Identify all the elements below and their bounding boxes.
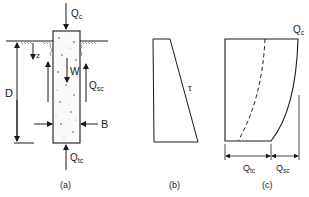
label-d: D [5, 87, 13, 99]
label-qc: Qc [71, 8, 83, 20]
pile-shaft [53, 31, 80, 143]
label-qsc-c: Qsc [276, 163, 290, 174]
pile-load-diagram: Qc z W Qsc D B Qtc (a) τ (b) Qc [0, 0, 309, 197]
label-b: B [101, 118, 108, 130]
caption-c: (c) [262, 180, 273, 190]
label-w: W [70, 66, 80, 77]
load-distribution-outline [225, 39, 298, 141]
label-qsc: Qsc [89, 80, 104, 92]
caption-a: (a) [60, 180, 71, 190]
label-tau: τ [188, 83, 192, 93]
label-qc-c: Qc [293, 24, 305, 36]
caption-b: (b) [169, 180, 180, 190]
label-z: z [36, 51, 40, 60]
label-qtc-c: Qtc [243, 163, 256, 174]
panel-b: τ (b) [153, 39, 198, 190]
panel-c: Qc Qtc Qsc (c) [225, 24, 305, 190]
panel-a: Qc z W Qsc D B Qtc (a) [5, 3, 108, 190]
label-qtc: Qtc [70, 152, 84, 164]
tip-load-curve-dashed [238, 39, 265, 141]
